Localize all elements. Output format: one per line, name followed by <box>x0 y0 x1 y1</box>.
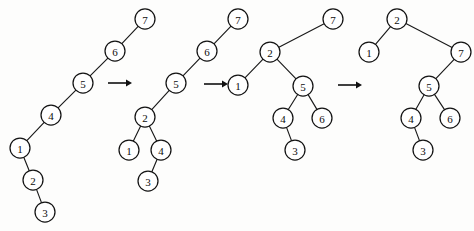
arrow-head <box>356 82 362 89</box>
node-label: 4 <box>158 145 164 157</box>
edges-layer <box>24 24 454 203</box>
node-label: 4 <box>48 110 54 122</box>
tree-node[interactable]: 3 <box>35 202 55 222</box>
node-label: 6 <box>447 113 453 125</box>
tree-node[interactable]: 5 <box>73 73 93 93</box>
node-label: 3 <box>420 145 426 157</box>
node-label: 2 <box>394 14 400 26</box>
tree-edge <box>149 126 156 141</box>
node-label: 7 <box>235 14 241 26</box>
tree-edge <box>152 90 170 109</box>
tree-node[interactable]: 2 <box>260 42 280 62</box>
tree-node[interactable]: 7 <box>323 9 343 29</box>
tree-edge <box>308 95 317 110</box>
tree-node[interactable]: 2 <box>23 170 43 190</box>
node-label: 5 <box>80 78 86 90</box>
tree-node[interactable]: 5 <box>293 76 313 96</box>
tree-edge <box>90 58 108 76</box>
tree-node[interactable]: 2 <box>135 107 155 127</box>
arrow-head <box>222 81 228 88</box>
tree-edge <box>436 59 454 78</box>
node-label: 3 <box>145 176 151 188</box>
tree-node[interactable]: 1 <box>228 75 248 95</box>
node-label: 7 <box>142 14 148 26</box>
node-label: 4 <box>408 113 414 125</box>
node-label: 7 <box>330 14 336 26</box>
tree-edge <box>122 26 138 43</box>
tree-node[interactable]: 2 <box>387 9 407 29</box>
tree-edge <box>27 122 44 140</box>
node-label: 2 <box>30 175 36 187</box>
node-label: 4 <box>280 113 286 125</box>
tree-node[interactable]: 4 <box>41 105 61 125</box>
tree-node[interactable]: 7 <box>135 9 155 29</box>
tree-node[interactable]: 1 <box>119 140 139 160</box>
tree-edge <box>133 126 140 141</box>
tree-rotation-figure: 7654123765214372154632175463 <box>0 0 474 231</box>
node-label: 7 <box>458 47 464 59</box>
node-label: 1 <box>366 47 372 59</box>
tree-node[interactable]: 6 <box>105 41 125 61</box>
nodes-layer: 7654123765214372154632175463 <box>10 9 471 222</box>
tree-node[interactable]: 5 <box>419 76 439 96</box>
tree-node[interactable]: 4 <box>401 108 421 128</box>
node-label: 6 <box>112 46 118 58</box>
node-label: 6 <box>204 46 210 58</box>
tree-node[interactable]: 7 <box>228 9 248 29</box>
tree-node[interactable]: 5 <box>166 73 186 93</box>
tree-edge <box>415 127 420 140</box>
tree-edge <box>406 24 452 48</box>
tree-edge <box>287 127 292 140</box>
node-label: 2 <box>267 47 273 59</box>
tree-edge <box>37 189 42 202</box>
tree-edge <box>416 95 424 110</box>
node-label: 5 <box>173 78 179 90</box>
tree-diagram-canvas: 7654123765214372154632175463 <box>0 0 474 231</box>
tree-node[interactable]: 1 <box>359 42 379 62</box>
tree-edge <box>24 157 29 170</box>
node-label: 1 <box>235 80 241 92</box>
arrow-2-icon <box>204 81 228 88</box>
tree-node[interactable]: 1 <box>10 138 30 158</box>
tree-edge <box>245 59 263 78</box>
arrow-1-icon <box>108 80 132 87</box>
node-label: 1 <box>17 143 23 155</box>
node-label: 1 <box>126 145 132 157</box>
tree-node[interactable]: 3 <box>285 140 305 160</box>
tree-edge <box>58 90 76 108</box>
node-label: 2 <box>142 112 148 124</box>
node-label: 6 <box>319 113 325 125</box>
tree-node[interactable]: 4 <box>151 140 171 160</box>
tree-node[interactable]: 7 <box>451 42 471 62</box>
tree-node[interactable]: 3 <box>413 140 433 160</box>
node-label: 3 <box>42 207 48 219</box>
node-label: 5 <box>300 81 306 93</box>
tree-node[interactable]: 6 <box>440 108 460 128</box>
arrow-3-icon <box>338 82 362 89</box>
tree-node[interactable]: 6 <box>312 108 332 128</box>
arrow-head <box>126 80 132 87</box>
tree-edge <box>434 94 444 109</box>
tree-edge <box>183 58 200 76</box>
tree-edge <box>279 24 324 48</box>
node-label: 3 <box>292 145 298 157</box>
tree-edge <box>375 27 390 45</box>
tree-edge <box>288 94 297 109</box>
tree-node[interactable]: 3 <box>138 171 158 191</box>
tree-edge <box>214 26 231 44</box>
tree-edge <box>277 59 296 79</box>
node-label: 5 <box>426 81 432 93</box>
tree-node[interactable]: 6 <box>197 41 217 61</box>
tree-edge <box>152 159 157 172</box>
tree-node[interactable]: 4 <box>273 108 293 128</box>
